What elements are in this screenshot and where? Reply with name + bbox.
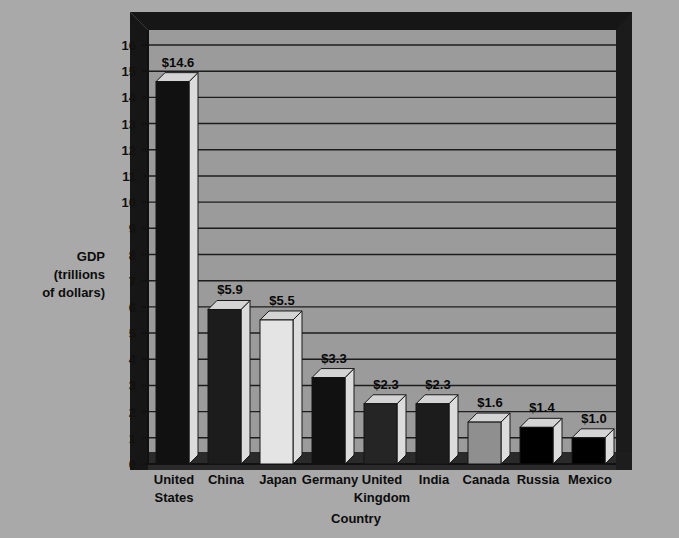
y-tick-label: 2: [129, 405, 136, 420]
category-label: Russia: [517, 472, 560, 487]
bar-side-face: [345, 369, 354, 464]
y-tick-label: 11: [122, 169, 136, 184]
bar-front-face: [416, 404, 449, 464]
category-label: Japan: [259, 472, 297, 487]
bar-side-face: [241, 300, 250, 464]
y-axis-title-line-2: (trillions: [54, 267, 105, 282]
y-tick-label: 3: [129, 378, 136, 393]
bar: [468, 413, 510, 464]
bar-front-face: [208, 309, 241, 464]
bar-value-label: $1.4: [529, 400, 555, 415]
bar-value-label: $2.3: [373, 377, 398, 392]
y-tick-label: 4: [129, 352, 137, 367]
y-tick-label: 13: [122, 117, 136, 132]
bar-front-face: [312, 378, 345, 464]
bar-side-face: [449, 395, 458, 464]
y-axis-title-line-3: of dollars): [42, 285, 105, 300]
bar-front-face: [468, 422, 501, 464]
bar-front-face: [572, 438, 605, 464]
gdp-bar-chart: 012345678910111213141516 $14.6$5.9$5.5$3…: [0, 0, 679, 538]
bar: [260, 311, 302, 464]
bar-front-face: [520, 427, 553, 464]
bar-value-label: $2.3: [425, 377, 450, 392]
bar-side-face: [293, 311, 302, 464]
bar-front-face: [364, 404, 397, 464]
bar: [208, 300, 250, 464]
y-tick-label: 9: [129, 221, 136, 236]
bar-side-face: [189, 73, 198, 464]
bar-front-face: [260, 320, 293, 464]
bar-value-label: $5.9: [217, 282, 242, 297]
bar: [312, 369, 354, 464]
bar: [572, 429, 614, 464]
y-tick-label: 10: [122, 195, 136, 210]
y-tick-label: 7: [129, 274, 136, 289]
bar: [416, 395, 458, 464]
y-tick-label: 0: [129, 457, 136, 472]
category-label: Kingdom: [354, 490, 410, 505]
y-tick-label: 14: [122, 90, 137, 105]
category-label: States: [154, 490, 193, 505]
bar: [156, 73, 198, 464]
bar-value-label: $14.6: [162, 55, 195, 70]
bar-side-face: [397, 395, 406, 464]
y-tick-label: 16: [122, 38, 136, 53]
y-tick-label: 8: [129, 248, 136, 263]
bar-value-label: $5.5: [269, 293, 294, 308]
y-tick-label: 12: [122, 143, 136, 158]
y-tick-label: 6: [129, 300, 136, 315]
y-tick-label: 5: [129, 326, 136, 341]
bar: [364, 395, 406, 464]
category-label: Mexico: [568, 472, 612, 487]
chart-svg: 012345678910111213141516 $14.6$5.9$5.5$3…: [0, 0, 679, 538]
y-axis-title-line-1: GDP: [77, 249, 106, 264]
category-label: India: [419, 472, 450, 487]
y-tick-label: 1: [129, 431, 136, 446]
y-tick-label: 15: [122, 64, 136, 79]
category-label: United: [154, 472, 195, 487]
category-label: Germany: [302, 472, 359, 487]
bar: [520, 418, 562, 464]
category-label: China: [208, 472, 245, 487]
bar-value-label: $3.3: [321, 351, 346, 366]
category-label: Canada: [463, 472, 511, 487]
bar-front-face: [156, 82, 189, 464]
bar-value-label: $1.0: [581, 411, 606, 426]
bar-value-label: $1.6: [477, 395, 502, 410]
x-axis-title: Country: [331, 511, 382, 526]
category-label: United: [362, 472, 403, 487]
